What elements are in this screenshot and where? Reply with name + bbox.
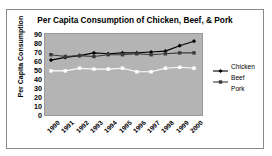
cut-off-page-heading: LINE GRAPH — [3, 0, 62, 2]
x-axis-tick-label: 2000 — [189, 119, 204, 134]
chart-title: Per Capita Consumption of Chicken, Beef,… — [7, 15, 263, 25]
data-point-marker — [121, 53, 124, 56]
data-point-marker — [192, 67, 195, 70]
x-axis-tick-label: 1993 — [89, 119, 104, 134]
y-axis-tick-label: 90 — [34, 31, 42, 38]
legend-item-beef[interactable]: Beef — [212, 73, 262, 83]
data-point-marker — [92, 51, 96, 55]
data-point-marker — [78, 54, 81, 57]
data-point-marker — [178, 66, 181, 69]
legend-label: Chicken — [231, 63, 255, 70]
y-axis-tick-label: 20 — [34, 94, 42, 101]
data-point-marker — [135, 52, 138, 55]
data-point-marker — [135, 70, 138, 73]
plot-svg — [45, 34, 202, 115]
data-point-marker — [192, 39, 196, 43]
data-point-marker — [149, 70, 152, 73]
y-axis-tick-label: 30 — [34, 85, 42, 92]
legend-label: Beef — [231, 74, 245, 81]
y-axis-tick-label: 0 — [38, 112, 42, 119]
x-axis-tick-label: 1995 — [117, 119, 132, 134]
x-axis-tick-label: 1996 — [131, 119, 146, 134]
data-point-marker — [149, 53, 152, 56]
data-point-marker — [121, 67, 124, 70]
data-point-marker — [107, 67, 110, 70]
legend-item-pork[interactable]: Pork — [212, 84, 262, 94]
x-axis-tick-label: 1991 — [60, 119, 75, 134]
data-point-marker — [107, 53, 110, 56]
chart-container: Per Capita Consumption of Chicken, Beef,… — [6, 9, 264, 149]
y-axis-title: Per Capita Consumption — [17, 26, 24, 98]
data-point-marker — [92, 55, 95, 58]
data-point-marker — [164, 67, 167, 70]
data-point-marker — [64, 55, 67, 58]
data-point-marker — [64, 69, 67, 72]
legend-marker-icon — [212, 84, 229, 94]
y-axis-tick-label: 10 — [34, 103, 42, 110]
data-point-marker — [192, 51, 195, 54]
x-axis-tick-label: 1999 — [174, 119, 189, 134]
x-axis-tick-label: 1998 — [160, 119, 175, 134]
legend-item-chicken[interactable]: Chicken — [212, 62, 262, 72]
legend-marker-icon — [212, 73, 229, 83]
data-point-marker — [178, 44, 182, 48]
plot-area — [44, 33, 203, 116]
data-point-marker — [49, 53, 52, 56]
y-axis-tick-label: 50 — [34, 67, 42, 74]
data-point-marker — [164, 52, 167, 55]
y-axis-tick-label: 70 — [34, 49, 42, 56]
legend-marker-icon — [212, 62, 229, 72]
y-axis-tick-label: 40 — [34, 76, 42, 83]
x-axis-tick-labels: 1990199119921993199419951996199719981999… — [44, 117, 203, 147]
data-point-marker — [49, 58, 53, 62]
y-axis-tick-label: 60 — [34, 58, 42, 65]
x-axis-tick-label: 1994 — [103, 119, 118, 134]
data-point-marker — [49, 69, 52, 72]
y-axis-tick-label: 80 — [34, 40, 42, 47]
x-axis-tick-label: 1990 — [46, 119, 61, 134]
series-line-chicken — [51, 41, 194, 60]
x-axis-tick-label: 1992 — [74, 119, 89, 134]
chart-legend: ChickenBeefPork — [212, 62, 262, 96]
y-axis-tick-labels: 9080706050403020100 — [26, 33, 42, 116]
legend-label: Pork — [231, 85, 245, 92]
data-point-marker — [78, 67, 81, 70]
x-axis-tick-label: 1997 — [146, 119, 161, 134]
data-point-marker — [92, 67, 95, 70]
data-point-marker — [219, 91, 222, 94]
data-point-marker — [178, 51, 181, 54]
